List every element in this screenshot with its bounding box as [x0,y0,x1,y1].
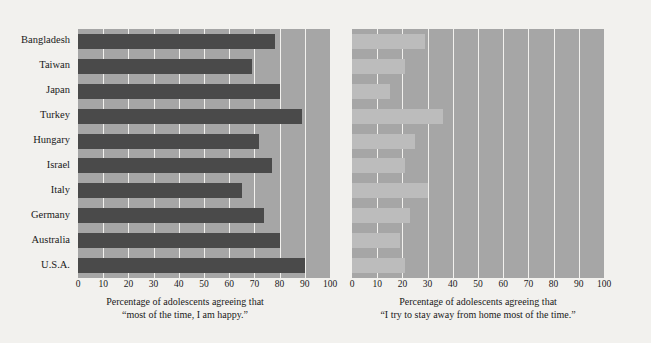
x-tick-40: 40 [448,280,458,290]
category-label-italy: Italy [51,185,70,196]
bar-italy [78,183,242,198]
bar-hungary [352,134,415,149]
category-label-u-s-a: U.S.A. [41,260,70,271]
x-tick-20: 20 [398,280,408,290]
bar-row [352,59,604,74]
x-tick-10: 10 [372,280,382,290]
x-tick-0: 0 [76,280,81,290]
bar-row [352,158,604,173]
bar-taiwan [352,59,405,74]
caption-left-line1: Percentage of adolescents agreeing that [40,296,330,309]
bar-israel [78,158,272,173]
category-label-turkey: Turkey [40,110,70,121]
bar-row [78,208,330,223]
bar-row [78,183,330,198]
bar-turkey [352,109,443,124]
category-label-hungary: Hungary [33,135,70,146]
bar-row [352,109,604,124]
x-tick-30: 30 [423,280,433,290]
category-label-japan: Japan [46,85,70,96]
category-label-taiwan: Taiwan [39,60,70,71]
bar-u-s-a [352,258,405,273]
bar-u-s-a [78,258,305,273]
bar-bangladesh [78,34,275,49]
category-label-bangladesh: Bangladesh [21,35,70,46]
bars-right [352,29,604,278]
bars-left [78,29,330,278]
x-tick-80: 80 [275,280,285,290]
x-tick-70: 70 [524,280,534,290]
gridline-100 [604,29,605,278]
x-tick-60: 60 [498,280,508,290]
x-axis-left: 0102030405060708090100 [78,280,330,294]
x-tick-80: 80 [549,280,559,290]
bar-row [352,134,604,149]
bar-row [78,258,330,273]
figure-container: BangladeshTaiwanJapanTurkeyHungaryIsrael… [0,0,651,343]
bar-taiwan [78,59,252,74]
bar-italy [352,183,428,198]
plot-area-right [352,29,604,278]
chart-panel-right: 0102030405060708090100 Percentage of ado… [331,0,651,343]
x-tick-90: 90 [300,280,310,290]
bar-hungary [78,134,259,149]
x-tick-50: 50 [473,280,483,290]
x-tick-10: 10 [98,280,108,290]
x-axis-right: 0102030405060708090100 [352,280,604,294]
x-tick-50: 50 [199,280,209,290]
bar-israel [352,158,405,173]
category-label-australia: Australia [32,235,71,246]
bar-row [78,34,330,49]
bar-row [78,84,330,99]
x-tick-100: 100 [597,280,611,290]
bar-japan [78,84,280,99]
bar-australia [352,233,400,248]
caption-left: Percentage of adolescents agreeing that … [40,296,330,321]
bar-row [78,59,330,74]
bar-row [352,208,604,223]
category-axis-labels: BangladeshTaiwanJapanTurkeyHungaryIsrael… [0,29,74,278]
bar-row [352,84,604,99]
caption-right: Percentage of adolescents agreeing that … [330,296,626,321]
bar-germany [78,208,264,223]
bar-row [352,233,604,248]
x-tick-30: 30 [149,280,159,290]
bar-row [78,134,330,149]
caption-right-line2: “I try to stay away from home most of th… [330,309,626,322]
bar-row [78,233,330,248]
x-tick-90: 90 [574,280,584,290]
bar-row [352,183,604,198]
bar-row [78,109,330,124]
bar-turkey [78,109,302,124]
bar-japan [352,84,390,99]
category-label-israel: Israel [47,160,70,171]
x-tick-0: 0 [350,280,355,290]
x-tick-40: 40 [174,280,184,290]
caption-left-line2: “most of the time, I am happy.” [40,309,330,322]
bar-bangladesh [352,34,425,49]
x-tick-20: 20 [124,280,134,290]
x-tick-70: 70 [250,280,260,290]
bar-australia [78,233,280,248]
plot-area-left [78,29,330,278]
bar-germany [352,208,410,223]
x-tick-60: 60 [224,280,234,290]
bar-row [78,158,330,173]
bar-row [352,34,604,49]
chart-panel-left: BangladeshTaiwanJapanTurkeyHungaryIsrael… [0,0,331,343]
bar-row [352,258,604,273]
category-label-germany: Germany [31,210,70,221]
caption-right-line1: Percentage of adolescents agreeing that [330,296,626,309]
